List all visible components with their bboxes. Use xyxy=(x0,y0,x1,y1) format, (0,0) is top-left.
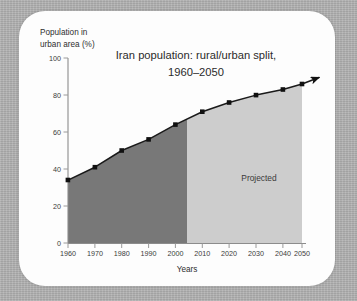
data-point xyxy=(173,122,178,127)
y-tick-label: 100 xyxy=(49,54,61,63)
y-tick-label: 80 xyxy=(53,91,61,100)
x-tick-label: 1970 xyxy=(87,249,103,258)
y-tick-label: 0 xyxy=(57,239,61,248)
data-point xyxy=(66,178,71,183)
data-point xyxy=(119,148,124,153)
x-tick-label: 2000 xyxy=(167,249,183,258)
x-tick-label: 2050 xyxy=(294,249,310,258)
data-point xyxy=(93,165,98,170)
y-tick-label: 60 xyxy=(53,128,61,137)
y-axis-label-line1: Population in xyxy=(40,28,88,37)
x-tick-label: 2040 xyxy=(275,249,291,258)
x-tick-label: 1980 xyxy=(114,249,130,258)
data-point xyxy=(300,82,305,87)
x-tick-label: 1990 xyxy=(141,249,157,258)
y-tick-label: 20 xyxy=(53,202,61,211)
chart-title-line1: Iran population: rural/urban split, xyxy=(116,49,276,61)
x-tick-label: 2010 xyxy=(194,249,210,258)
x-axis-label: Years xyxy=(177,265,198,274)
x-tick-label: 2030 xyxy=(248,249,264,258)
x-tick-label: 2020 xyxy=(221,249,237,258)
population-area-chart: 100 80 60 40 20 0 Population in urban ar… xyxy=(0,0,357,301)
x-tick-label: 1960 xyxy=(60,249,76,258)
projected-annotation: Projected xyxy=(241,173,277,183)
chart-title-line2: 1960–2050 xyxy=(168,66,224,78)
data-point xyxy=(227,100,232,105)
chart-title: Iran population: rural/urban split, 1960… xyxy=(116,49,276,78)
data-point xyxy=(200,109,205,114)
screenshot-root: 100 80 60 40 20 0 Population in urban ar… xyxy=(0,0,357,301)
data-point xyxy=(146,137,151,142)
y-tick-label: 40 xyxy=(53,165,61,174)
data-point xyxy=(281,87,286,92)
y-axis-label-line2: urban area (%) xyxy=(40,40,95,49)
y-axis-label: Population in urban area (%) xyxy=(40,28,95,49)
y-axis: 100 80 60 40 20 0 xyxy=(49,54,68,248)
data-point xyxy=(254,93,259,98)
x-axis: 1960 1970 1980 1990 2000 2010 2020 2030 … xyxy=(60,244,310,259)
